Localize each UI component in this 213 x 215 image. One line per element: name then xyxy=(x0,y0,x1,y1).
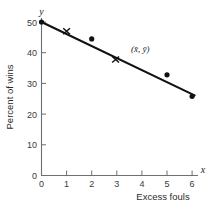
x-tick-marks xyxy=(42,171,193,176)
data-point-dot-2 xyxy=(164,72,169,77)
y-tick-label-30: 30 xyxy=(27,79,37,89)
y-axis-variable-symbol: y xyxy=(38,6,44,17)
x-tick-label-2: 2 xyxy=(89,179,94,189)
y-tick-label-50: 50 xyxy=(27,18,37,28)
data-point-dot-0 xyxy=(39,19,44,24)
scatter-plot-figure: 0 10 20 30 40 50 0 1 2 3 4 5 6 y xyxy=(0,0,213,215)
data-point-dot-3 xyxy=(190,94,195,99)
data-point-dot-1 xyxy=(89,36,94,41)
x-tick-label-3: 3 xyxy=(114,179,119,189)
x-tick-label-1: 1 xyxy=(64,179,69,189)
y-axis-title: Percent of wins xyxy=(4,64,15,129)
y-tick-labels: 0 10 20 30 40 50 xyxy=(27,18,37,182)
y-tick-label-0: 0 xyxy=(32,171,37,181)
x-axis-variable-symbol: x xyxy=(200,164,206,175)
y-tick-marks xyxy=(42,22,47,176)
x-tick-labels: 0 1 2 3 4 5 6 xyxy=(39,179,195,189)
y-tick-label-10: 10 xyxy=(27,140,37,150)
x-tick-label-6: 6 xyxy=(190,179,195,189)
x-axis-title: Excess fouls xyxy=(136,191,190,202)
mean-point-annotation: (x̄, ȳ) xyxy=(131,44,149,54)
chart-canvas: 0 10 20 30 40 50 0 1 2 3 4 5 6 y xyxy=(0,0,213,215)
x-tick-label-5: 5 xyxy=(164,179,169,189)
y-tick-label-20: 20 xyxy=(27,110,37,120)
axes-group xyxy=(41,18,198,176)
y-tick-label-40: 40 xyxy=(27,48,37,58)
x-tick-label-4: 4 xyxy=(139,179,144,189)
x-tick-label-0: 0 xyxy=(39,179,44,189)
